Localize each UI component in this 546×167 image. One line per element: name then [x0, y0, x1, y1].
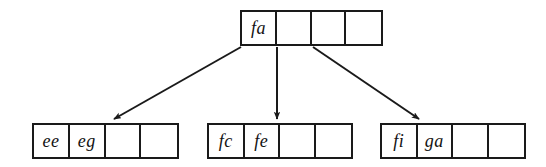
- btree-leaf-node-0[interactable]: ee eg: [32, 123, 179, 159]
- leaf-2-cell-2[interactable]: [453, 125, 489, 157]
- leaf-1-cell-0[interactable]: fc: [209, 125, 245, 157]
- leaf-0-cell-1[interactable]: eg: [70, 125, 106, 157]
- leaf-0-cell-2[interactable]: [106, 125, 142, 157]
- leaf-1-cell-1[interactable]: fe: [245, 125, 281, 157]
- btree-root-node[interactable]: fa: [240, 10, 383, 46]
- leaf-2-cell-3[interactable]: [489, 125, 524, 157]
- root-cell-2[interactable]: [312, 12, 347, 44]
- leaf-1-cell-2[interactable]: [280, 125, 316, 157]
- edge-root-to-leaf-0: [114, 47, 241, 119]
- root-cell-0[interactable]: fa: [242, 12, 277, 44]
- root-cell-1[interactable]: [277, 12, 312, 44]
- leaf-1-cell-3[interactable]: [316, 125, 351, 157]
- btree-leaf-node-2[interactable]: fi ga: [380, 123, 526, 159]
- btree-leaf-node-1[interactable]: fc fe: [207, 123, 353, 159]
- btree-diagram: fa ee eg fc fe fi ga: [0, 0, 546, 167]
- leaf-2-cell-0[interactable]: fi: [382, 125, 418, 157]
- leaf-0-cell-0[interactable]: ee: [34, 125, 70, 157]
- leaf-0-cell-3[interactable]: [141, 125, 177, 157]
- edge-root-to-leaf-2: [313, 47, 419, 119]
- leaf-2-cell-1[interactable]: ga: [418, 125, 454, 157]
- root-cell-3[interactable]: [346, 12, 381, 44]
